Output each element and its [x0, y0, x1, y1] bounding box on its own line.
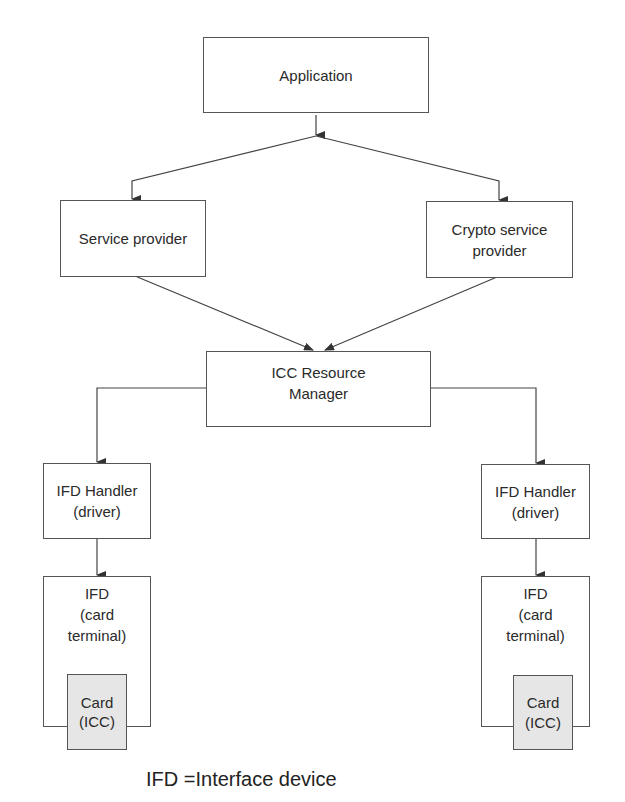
- application-node: Application: [203, 37, 429, 113]
- icc-resource-manager-label: ICC Resource Manager: [271, 362, 365, 404]
- ifd-left-label: IFD (card terminal): [68, 583, 126, 646]
- ifd-handler-right-label: IFD Handler (driver): [495, 481, 576, 523]
- ifd-handler-left-node: IFD Handler (driver): [43, 463, 151, 539]
- edge-to-crypto-provider: [316, 136, 499, 200]
- edge-crypto-to-icc: [325, 277, 497, 350]
- legend-footer: IFD =Interface device: [146, 768, 337, 791]
- edge-to-service-provider: [132, 136, 316, 199]
- crypto-service-provider-label: Crypto service provider: [452, 219, 548, 261]
- service-provider-label: Service provider: [79, 228, 187, 249]
- service-provider-node: Service provider: [60, 200, 206, 277]
- card-right-node: Card (ICC): [513, 675, 573, 750]
- ifd-handler-right-node: IFD Handler (driver): [481, 464, 590, 539]
- crypto-service-provider-node: Crypto service provider: [426, 201, 573, 278]
- edge-icc-to-handler-right: [431, 388, 536, 463]
- ifd-handler-left-label: IFD Handler (driver): [57, 480, 138, 522]
- application-label: Application: [279, 65, 352, 86]
- edge-icc-to-handler-left: [97, 388, 206, 462]
- ifd-right-label: IFD (card terminal): [506, 583, 564, 646]
- card-left-node: Card (ICC): [67, 674, 127, 750]
- card-left-label: Card (ICC): [79, 693, 115, 732]
- icc-resource-manager-node: ICC Resource Manager: [206, 351, 431, 427]
- edge-service-to-icc: [135, 276, 313, 350]
- card-right-label: Card (ICC): [525, 693, 561, 732]
